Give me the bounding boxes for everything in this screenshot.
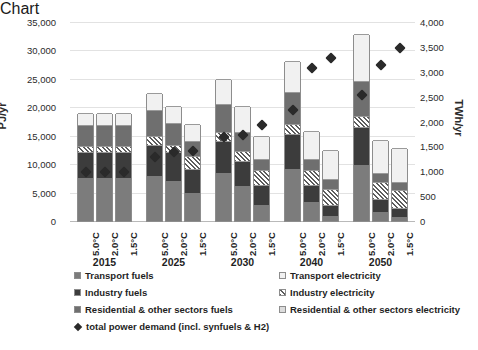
bar-segment [97, 125, 112, 146]
bar-segment [392, 190, 407, 208]
x-tick-label: 2.0°C [316, 232, 327, 256]
x-group-label: 2025 [139, 256, 208, 268]
y-tick-label-right: 500 [420, 191, 436, 202]
x-tick-label: 1.5°C [335, 232, 346, 256]
bar [353, 35, 370, 222]
legend-label: Transport electricity [290, 270, 381, 281]
bar-segment [116, 113, 131, 125]
bar-segment [373, 182, 388, 199]
bar-segment [147, 136, 162, 145]
bar-segment [254, 205, 269, 221]
bar [322, 151, 339, 222]
bar-segment [97, 178, 112, 221]
bar-segment [216, 79, 231, 103]
x-tick-label: 2.0°C [385, 232, 396, 256]
bar-segment [235, 186, 250, 221]
bar-segment [147, 93, 162, 110]
y-tick-label-right: 0 [420, 216, 425, 227]
legend-item: Residential & other sectors fuels [74, 304, 233, 315]
bar-segment [166, 106, 181, 122]
bar-segment [78, 125, 93, 146]
x-tick-label: 5.0°C [90, 232, 101, 256]
y-tick-label-right: 2,500 [420, 92, 444, 103]
bar-segment [304, 185, 319, 201]
x-tick-label: 5.0°C [159, 232, 170, 256]
legend-label: Residential & other sectors electricity [290, 304, 460, 315]
bar-segment [354, 127, 369, 165]
legend-label: Industry fuels [85, 287, 147, 298]
y-tick-label-left: 0 [51, 216, 56, 227]
bar-segment [304, 131, 319, 159]
bar-segment [185, 156, 200, 170]
y-tick-label-left: 10,000 [27, 159, 56, 170]
y-tick-label-left: 30,000 [27, 45, 56, 56]
diamond-icon [375, 60, 386, 71]
x-tick-label: 5.0°C [228, 232, 239, 256]
bar [165, 107, 182, 222]
legend-swatch [279, 306, 286, 313]
bar-segment [254, 185, 269, 204]
legend-label: Residential & other sectors fuels [85, 304, 233, 315]
bar-segment [254, 159, 269, 170]
legend-item: Industry electricity [279, 287, 374, 298]
legend-item: Industry fuels [74, 287, 147, 298]
plot-area [70, 23, 415, 222]
y-tick-label-left: 20,000 [27, 102, 56, 113]
bar-segment [373, 173, 388, 183]
bar-segment [323, 179, 338, 189]
bar-segment [147, 176, 162, 221]
legend-swatch [74, 306, 81, 313]
x-tick-label: 1.5°C [404, 232, 415, 256]
legend-swatch [279, 272, 286, 279]
bar-segment [235, 161, 250, 186]
x-group-label: 2040 [277, 256, 346, 268]
bar [253, 137, 270, 222]
legend-swatch [74, 289, 81, 296]
bar-segment [323, 216, 338, 221]
y-tick-label-right: 4,000 [420, 17, 444, 28]
legend-swatch [279, 289, 286, 296]
bar-segment [392, 182, 407, 191]
bar-segment [78, 113, 93, 125]
bar [184, 125, 201, 222]
x-tick-label: 1.5°C [266, 232, 277, 256]
bar-segment [285, 169, 300, 221]
bar-segment [304, 159, 319, 170]
bar-segment [323, 189, 338, 205]
bar [391, 149, 408, 222]
y-tick-label-left: 25,000 [27, 74, 56, 85]
diamond-icon [394, 42, 405, 53]
x-group-label: 2050 [346, 256, 415, 268]
diamond-icon [306, 62, 317, 73]
bar-segment [116, 178, 131, 221]
bar-segment [116, 125, 131, 146]
bar [303, 132, 320, 222]
bar-segment [285, 134, 300, 169]
bar-segment [147, 110, 162, 136]
bar [215, 80, 232, 222]
bar-segment [354, 165, 369, 221]
bar [284, 62, 301, 222]
legend-swatch [74, 272, 81, 279]
chart-legend: Transport fuelsTransport electricityIndu… [74, 270, 474, 336]
y-tick-label-right: 1,500 [420, 141, 444, 152]
stacked-bar-chart: PJ/yr TWh/yr 05,00010,00015,00020,00025,… [0, 0, 478, 350]
x-tick-label: 2.0°C [178, 232, 189, 256]
bar-segment [285, 61, 300, 92]
bar-segment [97, 146, 112, 152]
legend-label: total power demand (incl. synfuels & H2) [86, 321, 269, 332]
y-tick-label-left: 15,000 [27, 131, 56, 142]
x-tick-label: 5.0°C [366, 232, 377, 256]
legend-item: Transport electricity [279, 270, 381, 281]
bar [234, 107, 251, 222]
x-group-label: 2015 [70, 256, 139, 268]
y-tick-label-left: 35,000 [27, 17, 56, 28]
legend-item: total power demand (incl. synfuels & H2) [74, 321, 269, 332]
bar-segment [166, 123, 181, 145]
x-tick-label: 2.0°C [109, 232, 120, 256]
y-tick-label-right: 1,000 [420, 166, 444, 177]
gridline [70, 22, 415, 23]
bar-segment [373, 140, 388, 172]
x-tick-label: 1.5°C [197, 232, 208, 256]
legend-label: Transport fuels [85, 270, 154, 281]
